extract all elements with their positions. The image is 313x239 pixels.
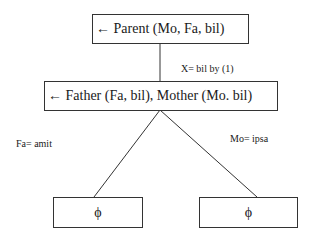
leaf-node-left: ϕ bbox=[53, 197, 143, 228]
edge-child-to-left-leaf bbox=[94, 110, 160, 197]
root-node-label: ← Parent (Mo, Fa, bil) bbox=[93, 21, 224, 37]
edge-label-root-child: X= bil by (1) bbox=[181, 63, 234, 74]
empty-set-symbol: ϕ bbox=[94, 205, 101, 221]
edge-label-left: Fa= amit bbox=[16, 138, 52, 149]
edge-label-right: Mo= ipsa bbox=[230, 133, 268, 144]
leaf-node-right: ϕ bbox=[199, 197, 298, 228]
empty-set-symbol: ϕ bbox=[245, 205, 252, 221]
child-node-father-mother: ← Father (Fa, bil), Mother (Mo. bil) bbox=[44, 81, 278, 111]
child-node-label: ← Father (Fa, bil), Mother (Mo. bil) bbox=[45, 88, 252, 104]
edge-child-to-right-leaf bbox=[160, 110, 257, 197]
root-node-parent: ← Parent (Mo, Fa, bil) bbox=[92, 14, 249, 44]
